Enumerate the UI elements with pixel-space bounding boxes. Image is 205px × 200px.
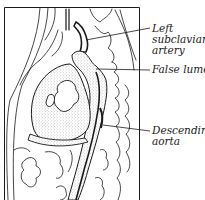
label-line: False lumen xyxy=(152,64,205,75)
label-left-subclavian-artery: Left subclavian artery xyxy=(152,23,205,56)
label-false-lumen: False lumen xyxy=(152,64,205,75)
label-line: artery xyxy=(152,45,205,56)
label-descending-aorta: Descending aorta xyxy=(152,125,205,147)
left-subclavian-artery-shape xyxy=(74,22,88,52)
label-line: aorta xyxy=(152,136,205,147)
